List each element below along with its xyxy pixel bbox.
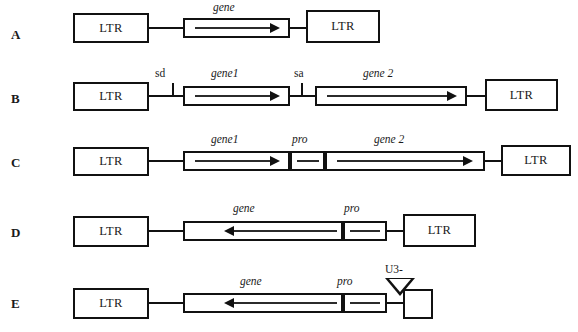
row-c-left-ltr-label: LTR (99, 155, 123, 168)
row-a-left-ltr-box: LTR (73, 13, 149, 43)
row-b-right-ltr-label: LTR (510, 89, 534, 102)
row-a-right-ltr-label: LTR (331, 20, 355, 33)
row-b-left-ltr-box: LTR (73, 82, 149, 111)
row-b-gene1-label: gene1 (211, 68, 238, 80)
row-d-pro-line (350, 230, 380, 232)
row-a-right-ltr-box: LTR (306, 10, 380, 43)
row-b-left-ltr-label: LTR (99, 90, 123, 103)
row-d-left-ltr-label: LTR (99, 225, 123, 238)
row-a-connector-left (149, 27, 183, 29)
row-e-sin-ltr-box (403, 289, 433, 319)
row-c-connector-right (485, 160, 501, 162)
row-c-gene1-arrow-shaft (195, 160, 271, 162)
row-b-right-ltr-box: LTR (485, 79, 558, 111)
row-c-gene2-arrow-shaft (337, 160, 464, 162)
row-b-sd-tick (172, 83, 174, 95)
row-c-right-ltr-label: LTR (524, 154, 548, 167)
row-label-a: A (11, 28, 20, 41)
row-d-gene-arrow-head-left-icon (224, 226, 234, 236)
row-b-gene2-label: gene 2 (363, 68, 393, 80)
row-d-right-ltr-box: LTR (403, 214, 476, 247)
row-b-gene1-arrow-shaft (195, 95, 271, 97)
row-d-gene-arrow-shaft (234, 230, 337, 232)
row-b-sa-label: sa (294, 68, 304, 80)
row-e-connector-right (387, 302, 403, 304)
row-c-right-ltr-box: LTR (501, 145, 571, 176)
row-c-gene1-arrow-head-right-icon (270, 156, 280, 166)
row-a-connector-right (290, 27, 306, 29)
row-b-sa-tick (301, 83, 303, 95)
row-e-connector-left (149, 302, 183, 304)
row-c-pro-label: pro (292, 134, 308, 146)
row-e-left-ltr-label: LTR (99, 297, 123, 310)
row-a-gene-arrow-head-right-icon (270, 23, 280, 33)
row-d-pro-label: pro (344, 203, 360, 215)
row-b-gene1-arrow-head-right-icon (270, 91, 280, 101)
row-c-connector-left (149, 160, 183, 162)
row-e-gene-arrow-head-left-icon (224, 298, 234, 308)
row-c-gene2-arrow-head-right-icon (463, 156, 473, 166)
row-b-sd-label: sd (155, 68, 165, 80)
row-d-left-ltr-box: LTR (73, 216, 149, 247)
row-a-gene-arrow-shaft (195, 27, 271, 29)
row-d-connector-left (149, 230, 183, 232)
row-b-connector-right (467, 95, 485, 97)
row-d-connector-right (387, 230, 403, 232)
row-e-pro-label: pro (337, 276, 353, 288)
row-e-pro-line (350, 302, 380, 304)
row-b-gene2-arrow-head-right-icon (447, 91, 457, 101)
row-c-gene2-label: gene 2 (374, 134, 404, 146)
row-label-d: D (11, 226, 20, 239)
row-label-b: B (11, 92, 20, 105)
row-e-gene-arrow-shaft (234, 302, 337, 304)
row-d-right-ltr-label: LTR (428, 224, 452, 237)
row-label-e: E (11, 297, 20, 310)
row-a-left-ltr-label: LTR (99, 22, 123, 35)
vector-construct-figure: A LTR gene LTR B LTR sd gene1 sa gene 2 … (0, 0, 578, 332)
row-b-gene2-arrow-shaft (327, 95, 448, 97)
row-e-left-ltr-box: LTR (73, 288, 149, 319)
row-c-left-ltr-box: LTR (73, 147, 149, 176)
row-a-gene-label: gene (213, 2, 235, 14)
row-b-connector-left (149, 95, 183, 97)
row-c-pro-line (297, 160, 319, 162)
row-e-u3-label: U3- (385, 264, 403, 276)
row-e-gene-label: gene (240, 276, 262, 288)
row-d-gene-label: gene (233, 203, 255, 215)
row-c-gene1-label: gene1 (211, 134, 238, 146)
row-b-connector-mid (290, 95, 315, 97)
row-label-c: C (11, 156, 20, 169)
